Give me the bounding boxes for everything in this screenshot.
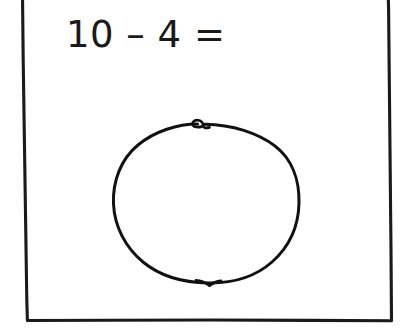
worksheet-page: 10 – 4 =: [0, 0, 405, 331]
circle-main-stroke: [113, 124, 299, 283]
equation-text: 10 – 4 =: [66, 12, 225, 58]
